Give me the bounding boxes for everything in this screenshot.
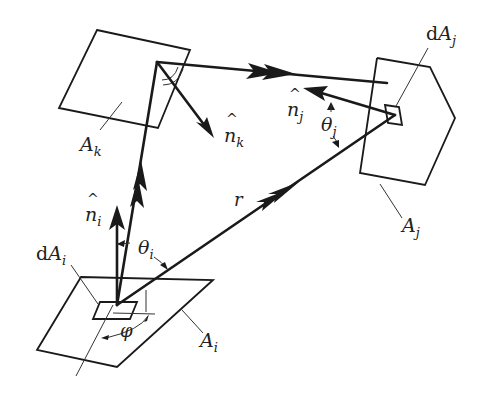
ray-r (117, 115, 395, 305)
label-dai: dAi (36, 242, 66, 268)
element-dai (93, 302, 137, 319)
theta-i-arrowhead-2 (160, 262, 168, 270)
ak-leader (100, 102, 122, 130)
hat-nk: ^ (226, 111, 238, 127)
label-daj: dAj (426, 22, 456, 48)
ray-i-to-k-arrowhead-1 (133, 160, 147, 191)
label-phi: φ (120, 320, 133, 341)
daj-leader (396, 48, 428, 106)
label-r: r (234, 189, 244, 210)
aj-leader (380, 184, 402, 218)
hat-nj: ^ (289, 86, 301, 102)
label-nk: nk (224, 124, 244, 150)
label-theta-j: θj (321, 113, 336, 139)
normal-nj (318, 92, 395, 115)
label-ai: Ai (198, 329, 218, 355)
label-ak: Ak (78, 133, 102, 159)
theta-j-arrowhead-bottom (332, 140, 339, 148)
label-aj: Aj (400, 214, 420, 240)
label-theta-i: θi (138, 236, 154, 262)
normal-nk-arrowhead (196, 117, 214, 138)
surface-aj (360, 58, 455, 185)
radiosity-diagram: Ak Aj Ai dAi dAj nk ^ nj ^ ni ^ θi θj φ … (0, 0, 487, 402)
dai-leader (71, 265, 98, 304)
phi-base-line (113, 313, 155, 314)
phi-arrowhead-left (101, 335, 109, 340)
hat-ni: ^ (87, 191, 99, 207)
